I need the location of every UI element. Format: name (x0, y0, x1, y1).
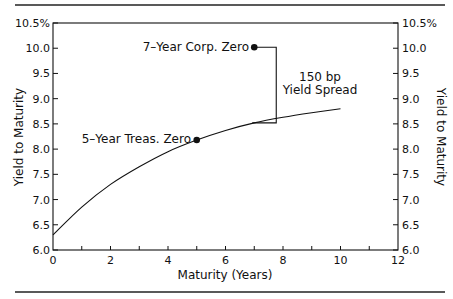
spread-label-line2: Yield Spread (282, 83, 358, 97)
right-y-axis-title: Yield to Maturity (434, 87, 448, 186)
left-tick-label: 7.0 (33, 194, 51, 207)
left-tick-label: 9.0 (33, 93, 51, 106)
corp-zero-point (251, 44, 258, 51)
x-axis-title: Maturity (Years) (178, 268, 273, 282)
left-y-axis-title: Yield to Maturity (12, 88, 26, 187)
left-tick-label: 8.5 (33, 118, 51, 131)
x-tick-label: 6 (222, 254, 229, 267)
corp-point-label: 7–Year Corp. Zero (143, 40, 249, 54)
left-tick-label: 10.0 (26, 42, 51, 55)
right-tick-label: 7.5 (402, 168, 420, 181)
treasury-yield-curve (53, 109, 341, 235)
treas-point-label: 5–Year Treas. Zero (82, 132, 191, 146)
left-tick-label: 9.5 (33, 67, 51, 80)
x-tick-label: 10 (334, 254, 348, 267)
right-tick-label: 9.0 (402, 93, 420, 106)
right-y-axis: 6.06.57.07.58.08.59.09.510.010.5% (393, 17, 437, 257)
treas-zero-point (193, 137, 200, 144)
x-tick-label: 12 (391, 254, 405, 267)
left-tick-label: 7.5 (33, 168, 51, 181)
spread-bracket (252, 47, 276, 123)
right-tick-label: 6.5 (402, 219, 420, 232)
left-tick-label: 10.5% (15, 17, 50, 30)
x-axis: 024681012 (50, 246, 406, 267)
x-tick-label: 4 (165, 254, 172, 267)
x-tick-label: 0 (50, 254, 57, 267)
yield-spread-chart: 6.06.57.07.58.08.59.09.510.010.5% 6.06.5… (0, 0, 453, 299)
right-tick-label: 9.5 (402, 67, 420, 80)
left-tick-label: 6.5 (33, 219, 51, 232)
left-tick-label: 6.0 (33, 244, 51, 257)
spread-label-line1: 150 bp (299, 70, 341, 84)
right-tick-label: 10.5% (402, 17, 437, 30)
left-tick-label: 8.0 (33, 143, 51, 156)
right-tick-label: 8.0 (402, 143, 420, 156)
x-tick-label: 8 (280, 254, 287, 267)
x-tick-label: 2 (107, 254, 114, 267)
right-tick-label: 8.5 (402, 118, 420, 131)
right-tick-label: 7.0 (402, 194, 420, 207)
right-tick-label: 10.0 (402, 42, 427, 55)
